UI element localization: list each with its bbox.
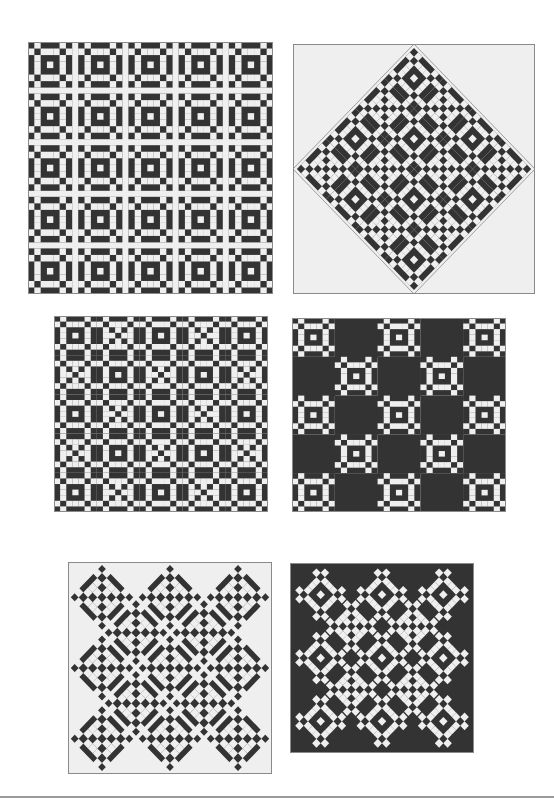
- quilt-panel-solid-alternate: [292, 318, 506, 512]
- page-bottom-rule: [0, 796, 554, 798]
- quilt-panel-x-dark: [290, 563, 474, 753]
- quilt-panel-on-point-diamond: [293, 44, 535, 294]
- quilt-panel-sashed-grid: [28, 42, 273, 294]
- quilt-panel-x-sashed: [68, 562, 272, 774]
- quilt-panel-alternating-grid: [54, 316, 268, 512]
